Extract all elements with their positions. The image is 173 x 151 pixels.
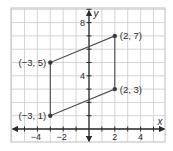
x-tick-label: −4: [31, 132, 41, 142]
y-tick-label: 4: [80, 71, 85, 81]
point-marker: [113, 34, 117, 38]
grid-border: [11, 8, 165, 142]
point-marker: [113, 87, 117, 91]
coordinate-plane: xy −4−22448 (−3, 1)(−3, 5)(2, 7)(2, 3): [0, 0, 173, 151]
point-label: (−3, 5): [19, 57, 47, 68]
x-axis-label: x: [157, 116, 164, 127]
point-label: (−3, 1): [19, 110, 47, 121]
x-tick-label: 2: [112, 132, 117, 142]
point-label: (2, 3): [120, 84, 142, 95]
point-label: (2, 7): [120, 30, 142, 41]
y-axis-label: y: [93, 8, 100, 19]
point-marker: [48, 114, 52, 118]
point-marker: [48, 60, 52, 64]
x-tick-label: −2: [57, 132, 67, 142]
y-tick-label: 8: [80, 18, 85, 28]
x-tick-label: 4: [138, 132, 143, 142]
coordinate-plane-chart: xy −4−22448 (−3, 1)(−3, 5)(2, 7)(2, 3): [0, 0, 173, 151]
grid-lines: [11, 8, 165, 142]
